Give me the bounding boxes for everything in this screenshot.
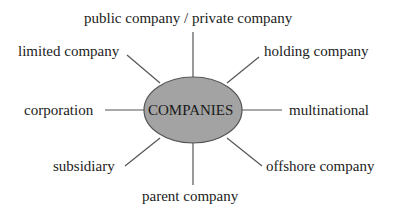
- node-bottom-left: subsidiary: [53, 157, 115, 175]
- connector-top-left: [127, 55, 160, 83]
- connector-top-right: [227, 57, 259, 83]
- node-bottom: parent company: [142, 187, 238, 205]
- node-bottom-right: offshore company: [266, 157, 374, 175]
- node-right: multinational: [289, 101, 369, 119]
- connector-bottom-left: [125, 138, 160, 166]
- connector-bottom-right: [227, 138, 262, 166]
- center-label: COMPANIES: [148, 101, 233, 119]
- node-top: public company / private company: [84, 9, 292, 27]
- node-left: corporation: [24, 101, 93, 119]
- node-top-left: limited company: [18, 42, 119, 60]
- node-top-right: holding company: [264, 42, 369, 60]
